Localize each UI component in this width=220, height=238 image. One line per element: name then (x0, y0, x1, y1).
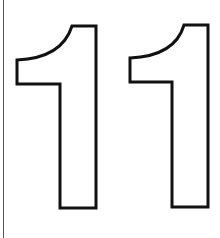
digit-one-left (17, 26, 96, 208)
digit-one-right (130, 25, 208, 207)
number-eleven-graphic (0, 0, 220, 238)
